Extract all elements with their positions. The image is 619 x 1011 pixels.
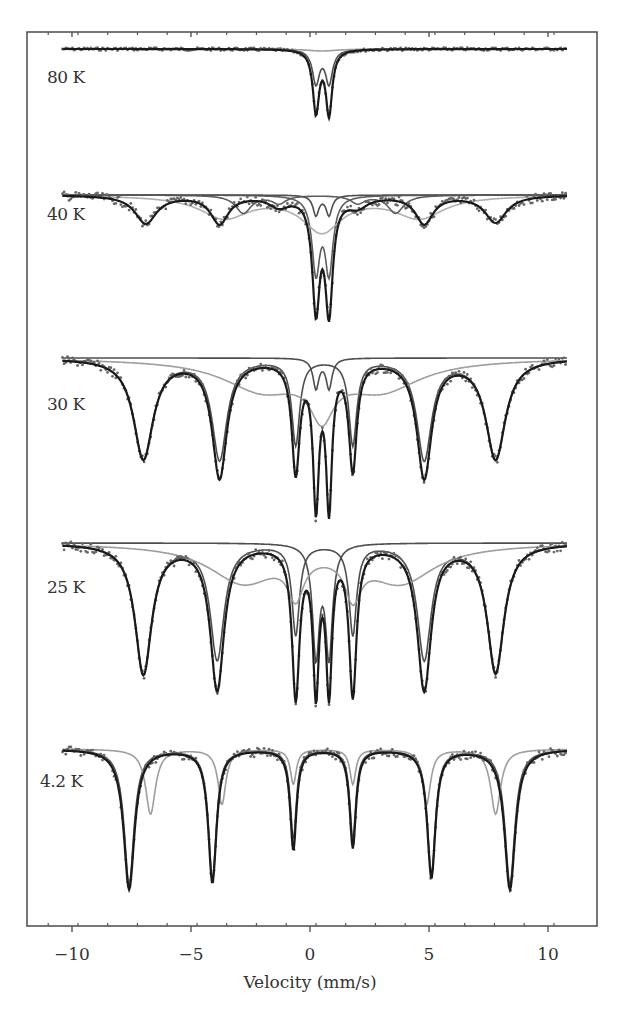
x-axis-ticks: [48, 32, 554, 932]
temperature-label: 4.2 K: [40, 771, 83, 791]
temperature-label: 80 K: [47, 67, 85, 87]
mossbauer-chart: [0, 0, 619, 1011]
temperature-label: 25 K: [47, 577, 85, 597]
x-tick-label: 5: [424, 944, 435, 964]
temperature-label: 40 K: [47, 204, 85, 224]
x-tick-label: 0: [305, 944, 316, 964]
x-tick-label: −10: [54, 944, 90, 964]
temperature-label: 30 K: [47, 394, 85, 414]
plot-frame: [27, 32, 597, 926]
x-tick-label: −5: [178, 944, 203, 964]
spectra-group: [61, 46, 567, 892]
x-tick-label: 10: [537, 944, 559, 964]
x-axis-title: Velocity (mm/s): [243, 972, 376, 992]
